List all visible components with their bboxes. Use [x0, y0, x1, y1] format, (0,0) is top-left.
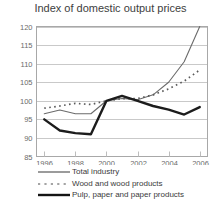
legend-swatch-dotted — [36, 178, 72, 189]
x-axis-tick-labels: 199619982000200220042006 — [36, 159, 209, 165]
chart-container: Index of domestic output prices 85909510… — [0, 0, 221, 207]
legend-label-wood-and-wood-products: Wood and wood products — [72, 178, 163, 189]
data-series-line — [44, 27, 199, 114]
data-series-line — [44, 70, 199, 108]
chart-legend: Total industry Wood and wood products Pu… — [36, 166, 221, 201]
y-axis-tick-label: 105 — [20, 78, 33, 87]
y-axis-tick-label: 120 — [20, 23, 33, 32]
x-axis-tick-label: 1998 — [67, 159, 84, 165]
legend-swatch-solid-thick — [36, 189, 72, 200]
y-axis-tick-label: 90 — [24, 134, 32, 143]
legend-item-pulp-paper-and-paper-products: Pulp, paper and paper products — [36, 189, 221, 201]
legend-item-total-industry: Total industry — [36, 166, 221, 178]
y-axis-tick-label: 110 — [21, 60, 33, 69]
y-axis-tick-label: 95 — [24, 115, 32, 124]
y-axis-tick-label: 115 — [21, 41, 33, 50]
x-axis-tick-label: 1996 — [36, 159, 53, 165]
legend-item-wood-and-wood-products: Wood and wood products — [36, 178, 221, 190]
data-series-group — [44, 27, 199, 135]
y-axis-tick-label: 100 — [20, 97, 33, 106]
legend-label-pulp-paper-and-paper-products: Pulp, paper and paper products — [72, 189, 184, 200]
legend-swatch-solid-thin — [36, 166, 72, 177]
x-axis-tick-label: 2006 — [192, 159, 209, 165]
x-axis-ticks — [45, 152, 201, 157]
x-axis-tick-label: 2000 — [98, 159, 115, 165]
legend-label-total-industry: Total industry — [72, 166, 119, 177]
chart-plot: 859095100105110115120 199619982000200220… — [0, 0, 221, 165]
x-axis-tick-label: 2004 — [161, 159, 178, 165]
y-axis-tick-label: 85 — [24, 153, 32, 162]
x-axis-tick-label: 2002 — [130, 159, 147, 165]
y-axis-tick-labels: 859095100105110115120 — [20, 23, 33, 162]
